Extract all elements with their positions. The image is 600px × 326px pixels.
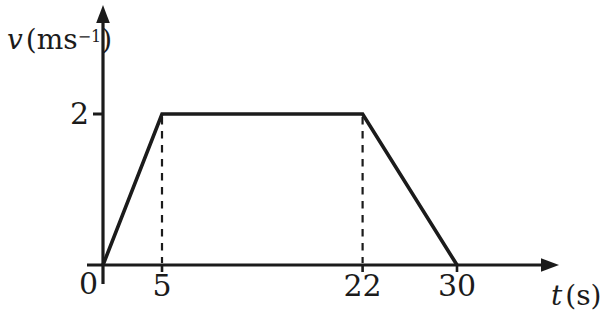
x-axis-label: t(s) xyxy=(551,281,600,312)
x-axis-unit: (s) xyxy=(565,279,600,312)
y-axis-unit: (ms−1) xyxy=(26,23,112,56)
velocity-curve xyxy=(103,114,457,265)
x-tick-label-22: 22 xyxy=(344,271,382,301)
y-axis-unit-close: ) xyxy=(101,23,112,56)
y-axis-unit-open: (ms xyxy=(26,23,78,56)
x-tick-label-30: 30 xyxy=(438,271,476,301)
y-axis-arrowhead xyxy=(96,5,110,23)
x-axis-variable: t xyxy=(551,279,565,312)
y-axis-label: v(ms−1) xyxy=(7,25,112,56)
y-axis-unit-exponent: −1 xyxy=(78,27,102,46)
x-tick-label-5: 5 xyxy=(152,271,171,301)
velocity-time-graph: v(ms−1) t(s) 0 5 22 30 2 xyxy=(0,0,600,326)
x-axis-arrowhead xyxy=(541,258,559,272)
origin-tick-label: 0 xyxy=(79,269,98,299)
y-axis-variable: v xyxy=(7,23,26,56)
y-tick-label-2: 2 xyxy=(70,99,89,129)
